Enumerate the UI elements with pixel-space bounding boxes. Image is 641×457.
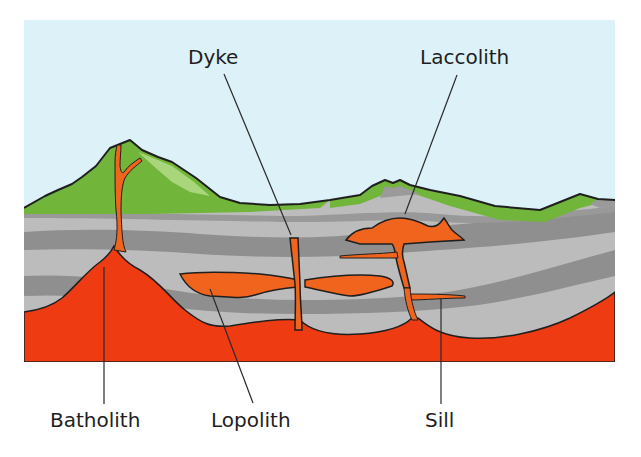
igneous-intrusions-diagram bbox=[0, 0, 641, 457]
label-sill: Sill bbox=[425, 410, 454, 430]
label-laccolith: Laccolith bbox=[420, 47, 509, 67]
label-lopolith: Lopolith bbox=[211, 410, 291, 430]
label-batholith: Batholith bbox=[50, 410, 140, 430]
label-dyke: Dyke bbox=[188, 47, 238, 67]
